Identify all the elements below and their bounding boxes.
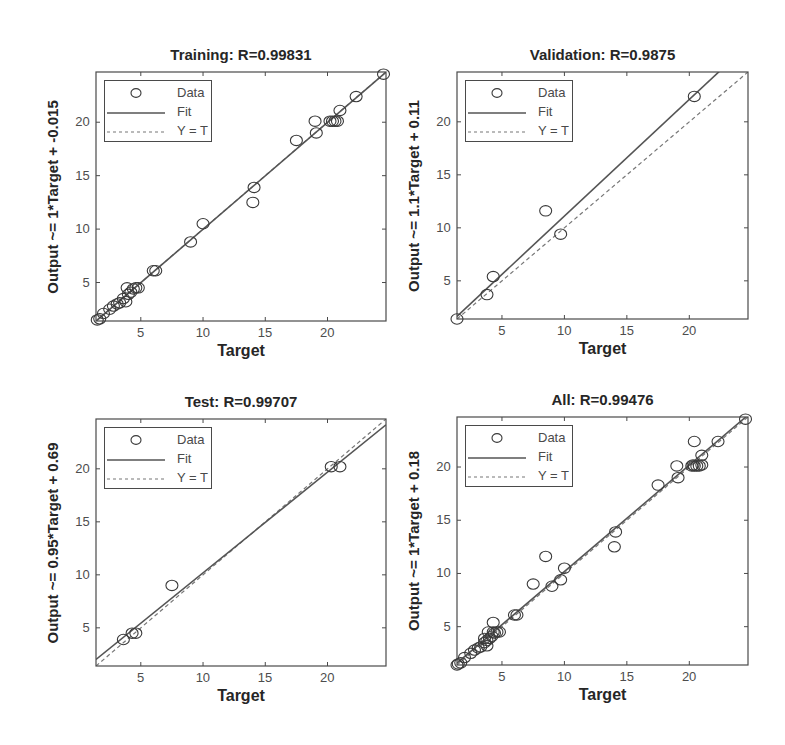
all-xlabel: Target [457, 686, 748, 704]
data-point [540, 551, 552, 561]
all-ylabel: Output ~= 1*Target + 0.18 [405, 451, 422, 631]
legend-item-data: Data [466, 429, 572, 447]
data-point [527, 579, 539, 589]
x-tick-label: 15 [619, 669, 633, 684]
x-tick-label: 10 [557, 669, 571, 684]
data-point [487, 617, 499, 627]
data-point [608, 542, 620, 552]
x-tick-label: 5 [498, 669, 505, 684]
all-axes [0, 0, 785, 745]
legend-item-fit: Fit [466, 448, 572, 466]
y-tick-label: 5 [444, 619, 451, 634]
circle-marker-icon [466, 429, 528, 447]
legend-item-identity: Y = T [466, 467, 572, 485]
dashed-line-icon [466, 467, 528, 485]
data-point [688, 436, 700, 446]
x-tick-label: 20 [682, 669, 696, 684]
all-legend: Data Fit Y = T [465, 425, 573, 487]
solid-line-icon [466, 448, 528, 466]
y-tick-label: 10 [436, 565, 450, 580]
y-tick-label: 15 [436, 512, 450, 527]
data-point [652, 480, 664, 490]
data-point [671, 461, 683, 471]
y-tick-label: 20 [436, 459, 450, 474]
